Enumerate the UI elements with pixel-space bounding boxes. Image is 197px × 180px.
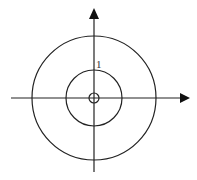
x-axis-arrow-icon	[180, 93, 190, 103]
radius-label: 1	[96, 58, 102, 70]
axes	[11, 8, 190, 172]
diagram-canvas: 1	[0, 0, 197, 180]
y-axis-arrow-icon	[89, 8, 99, 19]
